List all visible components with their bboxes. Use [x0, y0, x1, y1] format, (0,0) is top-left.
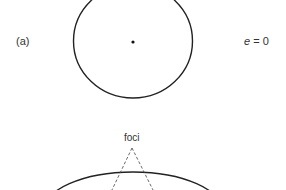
foci-pointer-right [132, 148, 154, 190]
center-point [131, 40, 134, 43]
panel-label-a: (a) [16, 36, 29, 47]
foci-label: foci [124, 133, 140, 143]
circle-orbit [74, 0, 193, 98]
diagram-canvas [0, 0, 286, 190]
eccentricity-label: e = 0 [244, 36, 269, 47]
ellipse-orbit [43, 172, 223, 190]
foci-pointer-left [111, 148, 132, 190]
eccentricity-value: = 0 [250, 35, 269, 47]
